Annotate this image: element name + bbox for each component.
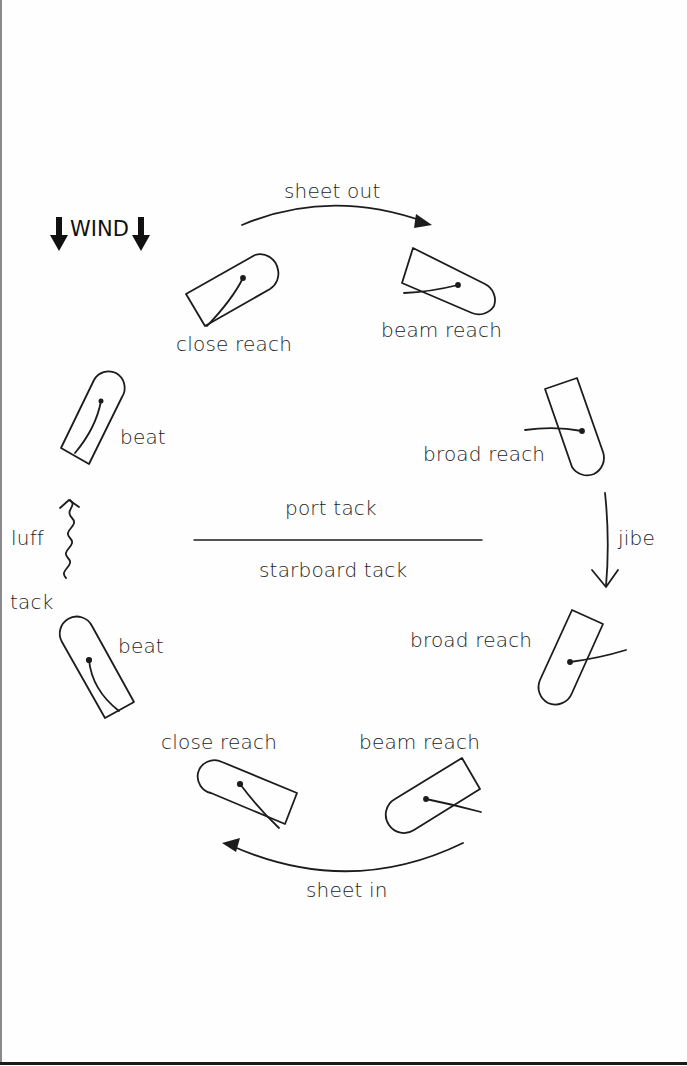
tack-label: tack xyxy=(10,592,53,612)
port-tack-label: port tack xyxy=(285,498,377,518)
boat-label-broad-reach-starboard: broad reach xyxy=(410,630,532,650)
boat-label-close-reach-starboard: close reach xyxy=(161,732,277,752)
boat-label-beam-reach-starboard: beam reach xyxy=(359,732,480,752)
boat-label-broad-reach-port: broad reach xyxy=(423,444,545,464)
boat-beat-starboard-icon xyxy=(60,617,134,718)
luff-label: luff xyxy=(11,528,44,548)
sheet-out-arrow-icon xyxy=(242,206,432,228)
jibe-label: jibe xyxy=(618,528,655,548)
sailing-diagram-graphics xyxy=(0,0,687,1066)
boat-close-reach-starboard-icon xyxy=(198,760,297,828)
luff-wavy-arrow-icon xyxy=(60,500,79,578)
boat-beam-reach-port-icon xyxy=(402,248,495,314)
boat-label-beat-starboard: beat xyxy=(118,636,164,656)
boat-label-beat-port: beat xyxy=(120,427,166,447)
jibe-arrow-icon xyxy=(592,493,618,587)
sheet-out-label: sheet out xyxy=(284,181,380,201)
boat-beat-port-icon xyxy=(61,371,125,464)
starboard-tack-label: starboard tack xyxy=(259,560,407,580)
points-of-sail-diagram: WIND xyxy=(0,0,687,1066)
sheet-in-label: sheet in xyxy=(306,880,388,900)
boat-broad-reach-starboard-icon xyxy=(539,610,626,705)
boat-label-close-reach-port: close reach xyxy=(176,334,292,354)
boat-beam-reach-starboard-icon xyxy=(386,758,481,833)
sheet-in-arrow-icon xyxy=(222,838,463,871)
boat-close-reach-port-icon xyxy=(186,254,278,326)
boat-label-beam-reach-port: beam reach xyxy=(381,320,502,340)
